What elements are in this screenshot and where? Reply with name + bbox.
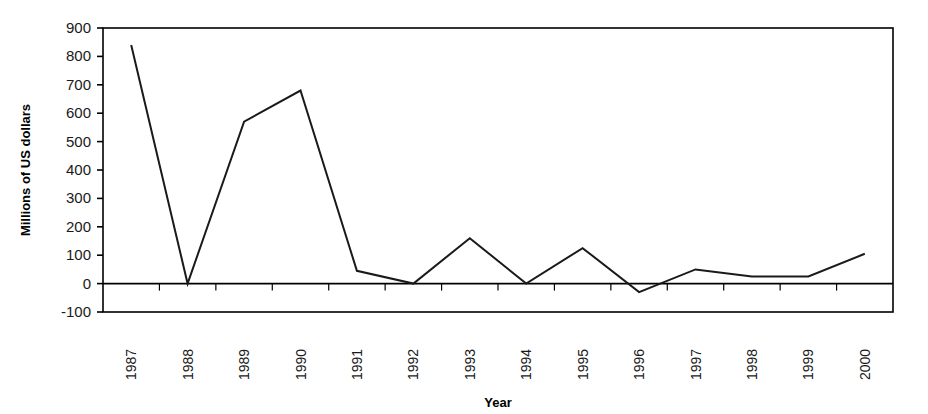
y-axis-tick-label: 700 bbox=[66, 76, 91, 93]
y-axis-tick-label: 0 bbox=[83, 275, 91, 292]
y-axis-tick-label: 100 bbox=[66, 246, 91, 263]
y-axis-tick-label: 500 bbox=[66, 133, 91, 150]
x-axis-category-label: 1991 bbox=[349, 349, 365, 380]
y-axis-tick-label: 300 bbox=[66, 189, 91, 206]
x-axis-category-label: 1994 bbox=[518, 349, 534, 380]
chart-canvas: 9008007006005004003002001000-100 1987198… bbox=[0, 0, 928, 414]
x-axis-category-label: 1992 bbox=[405, 349, 421, 380]
x-axis-category-label: 1987 bbox=[123, 349, 139, 380]
y-axis-tick-label: -100 bbox=[61, 303, 91, 320]
y-axis-title: Millions of US dollars bbox=[18, 104, 33, 236]
y-axis-tick-label: 900 bbox=[66, 19, 91, 36]
y-axis-tick-label: 400 bbox=[66, 161, 91, 178]
x-axis-category-label: 1997 bbox=[688, 349, 704, 380]
y-axis-ticks: 9008007006005004003002001000-100 bbox=[61, 19, 103, 320]
x-axis-category-label: 1990 bbox=[293, 349, 309, 380]
x-axis-category-label: 1995 bbox=[575, 349, 591, 380]
x-axis-category-label: 1996 bbox=[631, 349, 647, 380]
x-axis-category-label: 1998 bbox=[744, 349, 760, 380]
x-axis-category-label: 1989 bbox=[236, 349, 252, 380]
x-axis-category-label: 2000 bbox=[857, 349, 873, 380]
y-axis-tick-label: 600 bbox=[66, 104, 91, 121]
y-axis-tick-label: 200 bbox=[66, 218, 91, 235]
x-axis-category-label: 1993 bbox=[462, 349, 478, 380]
plot-background bbox=[103, 28, 893, 312]
x-axis-category-labels: 1987198819891990199119921993199419951996… bbox=[123, 349, 873, 380]
line-chart: 9008007006005004003002001000-100 1987198… bbox=[0, 0, 928, 414]
y-axis-tick-label: 800 bbox=[66, 47, 91, 64]
x-axis-category-label: 1988 bbox=[180, 349, 196, 380]
x-axis-title: Year bbox=[484, 395, 511, 410]
x-axis-category-label: 1999 bbox=[800, 349, 816, 380]
